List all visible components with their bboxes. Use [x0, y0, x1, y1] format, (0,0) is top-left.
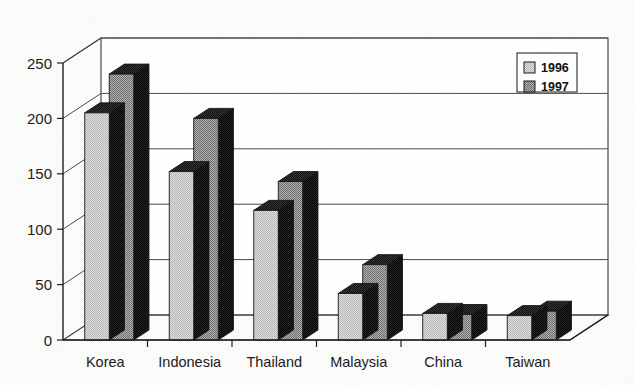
- bar-chart-figure: 050100150200250 KoreaIndonesiaThailandMa…: [0, 0, 635, 385]
- paper-grain-overlay: [0, 0, 635, 385]
- chart-canvas: 050100150200250 KoreaIndonesiaThailandMa…: [0, 0, 635, 385]
